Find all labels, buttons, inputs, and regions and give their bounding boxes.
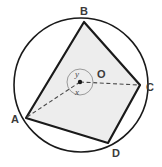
centre-label-o: O — [97, 69, 106, 80]
angle-label-y: y — [75, 70, 79, 79]
centre-dot — [78, 80, 82, 84]
angle-label-x: x — [75, 88, 79, 97]
diagram-canvas: B A C D O y x — [0, 0, 162, 167]
vertex-label-b: B — [80, 6, 88, 17]
vertex-label-c: C — [146, 82, 154, 93]
vertex-label-a: A — [11, 114, 19, 125]
vertex-label-d: D — [112, 148, 120, 159]
geometry-figure — [0, 0, 162, 167]
